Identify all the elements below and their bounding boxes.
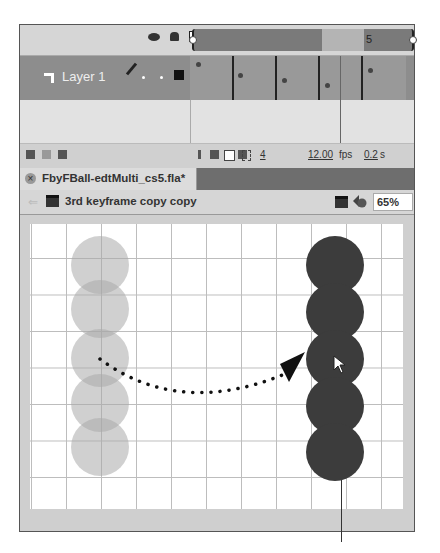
document-tab[interactable]: × FbyFBall-edtMulti_cs5.fla*	[20, 168, 197, 190]
scene-icon	[46, 195, 59, 207]
visibility-dot[interactable]	[142, 76, 145, 79]
lock-icon[interactable]	[170, 32, 179, 41]
keyframe-dot[interactable]	[325, 83, 330, 88]
modify-markers-icon[interactable]	[242, 150, 251, 161]
document-title: FbyFBall-edtMulti_cs5.fla*	[42, 172, 185, 184]
current-frame: 4	[260, 149, 266, 160]
center-frame-icon[interactable]	[198, 150, 201, 159]
layer-icon	[44, 73, 54, 83]
onion-end-handle[interactable]	[409, 36, 417, 44]
back-arrow-icon[interactable]: ⇐	[28, 195, 38, 209]
frame-number: 5	[366, 33, 372, 45]
keyframe-dot[interactable]	[282, 78, 287, 83]
keyframe-dot[interactable]	[238, 73, 243, 78]
flash-editor-window: 5 Layer 1	[19, 24, 415, 532]
delete-icon[interactable]	[58, 150, 67, 159]
playhead-line	[340, 56, 341, 143]
onion-outline-icon[interactable]	[224, 150, 235, 161]
close-icon[interactable]: ×	[25, 173, 36, 184]
document-tab-bar: × FbyFBall-edtMulti_cs5.fla*	[20, 168, 414, 190]
frames-area[interactable]	[190, 56, 406, 100]
new-layer-icon[interactable]	[26, 150, 35, 159]
callout-line	[341, 480, 342, 542]
lock-dot[interactable]	[160, 76, 163, 79]
edit-bar: ⇐ 3rd keyframe copy copy 65%	[20, 190, 414, 215]
eye-icon[interactable]	[148, 33, 160, 41]
onion-skin-markers[interactable]: 5	[192, 29, 414, 51]
zoom-input[interactable]: 65%	[373, 193, 413, 211]
frame-rate[interactable]: 12.00	[308, 149, 333, 160]
keyframe-dot[interactable]	[196, 62, 201, 67]
fps-unit: fps	[339, 149, 352, 160]
layer-name[interactable]: Layer 1	[62, 69, 105, 84]
stage[interactable]	[30, 224, 403, 509]
outline-color-icon[interactable]	[174, 70, 184, 80]
edit-scene-icon[interactable]	[335, 196, 348, 208]
playhead[interactable]	[322, 29, 364, 51]
onion-skin-icon[interactable]	[210, 150, 219, 159]
timeline-header: 5	[20, 25, 414, 56]
pencil-icon	[126, 63, 137, 76]
pointer-cursor-icon	[333, 355, 349, 375]
elapsed-unit: s	[380, 149, 385, 160]
pasteboard	[20, 215, 414, 531]
timeline-empty-area	[20, 100, 414, 143]
onion-start-handle[interactable]	[189, 36, 197, 44]
edit-symbols-icon[interactable]	[352, 194, 367, 208]
keyframe-dot[interactable]	[368, 68, 373, 73]
layer-row[interactable]: Layer 1	[20, 56, 414, 100]
elapsed-time: 0.2	[364, 149, 378, 160]
timeline-footer: 4 12.00 fps 0.2 s	[20, 143, 414, 168]
new-folder-icon[interactable]	[42, 150, 51, 159]
scene-label[interactable]: 3rd keyframe copy copy	[65, 195, 197, 207]
